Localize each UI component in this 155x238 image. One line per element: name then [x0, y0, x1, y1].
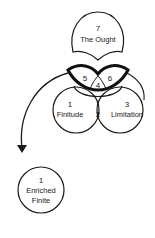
lens-left-number: 5 [83, 74, 88, 83]
ought-label: The Ought [80, 35, 116, 44]
ought-number: 7 [96, 24, 101, 33]
enriched-label-1: Enriched [26, 186, 56, 195]
arrow-head-icon [17, 145, 27, 153]
enriched-label-2: Finite [32, 196, 50, 205]
lens-center-number: 4 [96, 81, 101, 90]
lens-right-number: 6 [108, 74, 113, 83]
overlap-number: 2 [96, 110, 101, 119]
finitude-number: 1 [68, 100, 73, 109]
dialectic-diagram: 7 The Ought 5 4 6 1 Finitude 2 3 Limitat… [0, 0, 155, 238]
finitude-label: Finitude [57, 110, 84, 119]
limitation-label: Limitation [111, 110, 143, 119]
outer-arc-right [127, 73, 144, 100]
enriched-number: 1 [39, 176, 44, 185]
limitation-number: 3 [125, 100, 130, 109]
